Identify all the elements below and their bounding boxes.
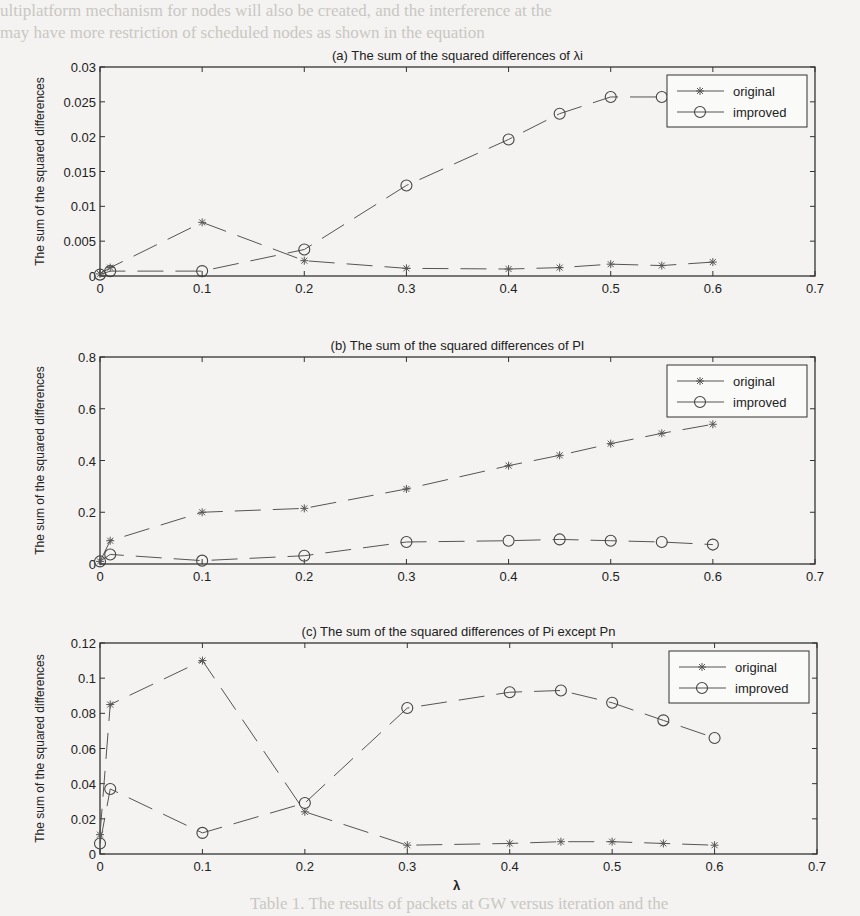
legend-label-original: original (735, 660, 777, 675)
star-marker-icon (659, 839, 667, 847)
series-original (96, 657, 719, 850)
y-tick-label: 0.12 (71, 636, 96, 651)
y-tick-label: 0.08 (71, 706, 96, 721)
legend: originalimproved (669, 651, 809, 703)
y-tick-label: 0.1 (78, 671, 96, 686)
y-tick-label: 0.02 (71, 812, 96, 827)
star-marker-icon (403, 841, 411, 849)
star-marker-icon (198, 657, 206, 665)
x-tick-label: 0.7 (808, 859, 826, 874)
chart-c: (c) The sum of the squared differences o… (0, 0, 860, 916)
x-tick-label: 0.5 (603, 859, 621, 874)
x-tick-label: 0 (96, 859, 103, 874)
y-tick-label: 0.04 (71, 777, 96, 792)
x-tick-label: 0.1 (193, 859, 211, 874)
star-marker-icon (506, 839, 514, 847)
star-marker-icon (698, 663, 706, 671)
x-tick-label: 0.2 (296, 859, 314, 874)
x-tick-label: 0.6 (706, 859, 724, 874)
legend-label-improved: improved (735, 681, 788, 696)
chart-title: (c) The sum of the squared differences o… (302, 624, 616, 639)
star-marker-icon (711, 841, 719, 849)
x-tick-label: 0.3 (398, 859, 416, 874)
y-tick-label: 0.06 (71, 742, 96, 757)
circle-marker-icon (709, 732, 720, 743)
y-tick-label: 0 (89, 847, 96, 862)
star-marker-icon (557, 838, 565, 846)
star-marker-icon (106, 701, 114, 709)
circle-marker-icon (299, 798, 310, 809)
x-tick-label: 0.4 (501, 859, 519, 874)
y-axis-label: The sum of the squared differences (33, 654, 47, 843)
series-improved (95, 685, 721, 849)
x-axis-label: λ (453, 878, 461, 893)
star-marker-icon (608, 838, 616, 846)
